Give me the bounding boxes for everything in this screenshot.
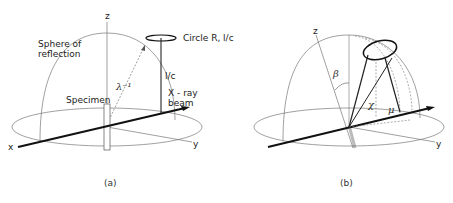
z-axis-label-b: z (313, 26, 318, 36)
sphere-label-line2: reflection (38, 49, 80, 59)
cone-line-center (349, 58, 392, 127)
beta-arc (335, 83, 349, 90)
xray-beam-arrowhead-b (426, 106, 435, 111)
xray-beam-a (18, 108, 185, 147)
radius-label: λ⁻¹ (115, 81, 132, 92)
chi-label: χ (367, 99, 375, 110)
diagram-canvas: z x y Sphere of reflection Circle R, l/c… (0, 0, 453, 203)
panel-a: z x y Sphere of reflection Circle R, l/c… (8, 11, 234, 188)
sphere-label-line1: Sphere of (38, 39, 82, 49)
x-axis-label-a: x (8, 142, 14, 152)
circle-label: Circle R, l/c (183, 33, 234, 43)
specimen-label: Specimen (66, 95, 110, 105)
caption-a: (a) (104, 178, 117, 188)
height-label: l/c (165, 71, 176, 81)
beam-label-line2: beam (168, 98, 194, 108)
y-axis-b (349, 127, 435, 142)
beam-label-line1: X - ray (168, 88, 198, 98)
panel-b: z y β χ μ (b) (254, 26, 444, 188)
beta-label: β (332, 68, 339, 79)
caption-b: (b) (340, 178, 353, 188)
y-axis-a (107, 127, 192, 142)
mu-label: μ (388, 104, 395, 115)
cone-line-left (349, 55, 368, 127)
hemisphere-b (283, 35, 420, 141)
z-axis-label-a: z (105, 11, 110, 21)
y-axis-label-a: y (193, 139, 199, 149)
y-axis-label-b: y (436, 139, 442, 149)
radius-arrowhead (141, 45, 145, 51)
